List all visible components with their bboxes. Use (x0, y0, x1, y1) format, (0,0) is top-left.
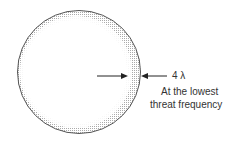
shielding-ring (18, 11, 141, 134)
note-line-2: threat frequency (150, 99, 222, 111)
thickness-label: 4 λ (172, 70, 185, 82)
outer-arrow (141, 73, 167, 79)
note-line-1: At the lowest (161, 86, 218, 98)
diagram-canvas (0, 0, 227, 146)
